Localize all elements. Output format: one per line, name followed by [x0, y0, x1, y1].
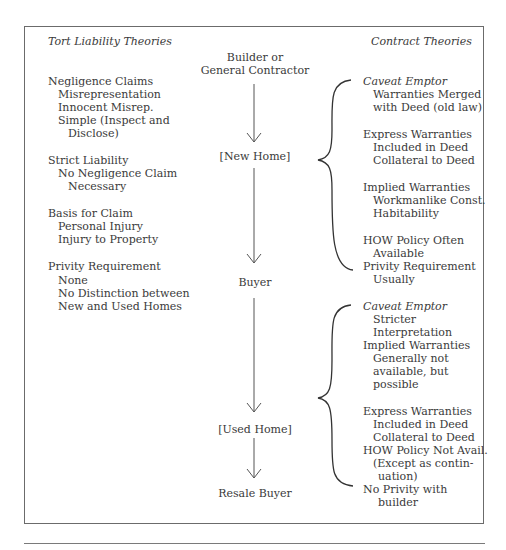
contract-item: uation) — [378, 470, 418, 483]
contract-item: Included in Deed — [373, 141, 468, 154]
contract-item: Interpretation — [373, 326, 452, 339]
contract-item: available, but — [373, 365, 449, 378]
group-item: New and Used Homes — [58, 300, 182, 313]
bottom-rule — [24, 543, 485, 544]
contract-title: No Privity with — [363, 483, 447, 496]
contract-title: Caveat Emptor — [363, 300, 447, 313]
group-item: No Distinction between — [58, 287, 190, 300]
node-general-contractor: General Contractor — [201, 64, 310, 77]
contract-title: Privity Requirement — [363, 260, 476, 273]
contract-title: Express Warranties — [363, 128, 472, 141]
node-buyer: Buyer — [238, 276, 271, 289]
group-item: Disclose) — [68, 127, 119, 140]
group-item: Simple (Inspect and — [58, 114, 170, 127]
contract-item: Collateral to Deed — [373, 431, 475, 444]
group-title: Basis for Claim — [48, 207, 133, 220]
contract-title: Implied Warranties — [363, 339, 470, 352]
group-title: Negligence Claims — [48, 75, 153, 88]
node-used-home: [Used Home] — [218, 423, 292, 436]
contract-item: possible — [373, 378, 419, 391]
group-item: None — [58, 274, 88, 287]
node-new-home: [New Home] — [220, 150, 291, 163]
contract-item: Available — [373, 247, 424, 260]
group-item: Injury to Property — [58, 233, 158, 246]
group-title: Strict Liability — [48, 154, 128, 167]
group-title: Privity Requirement — [48, 260, 161, 273]
contract-item: Workmanlike Const. — [373, 194, 486, 207]
node-resale-buyer: Resale Buyer — [218, 487, 292, 500]
group-item: Necessary — [68, 180, 126, 193]
contract-title: HOW Policy Not Avail. — [363, 444, 488, 457]
contract-item: Stricter — [373, 313, 416, 326]
contract-item: (Except as contin- — [373, 457, 473, 470]
tort-heading: Tort Liability Theories — [48, 35, 172, 48]
contract-heading: Contract Theories — [371, 35, 472, 48]
contract-title: Implied Warranties — [363, 181, 470, 194]
contract-item: Collateral to Deed — [373, 154, 475, 167]
contract-item: Generally not — [373, 352, 449, 365]
contract-title: HOW Policy Often — [363, 234, 464, 247]
contract-item: with Deed (old law) — [373, 101, 482, 114]
group-item: Personal Injury — [58, 220, 143, 233]
contract-item: Included in Deed — [373, 418, 468, 431]
group-item: No Negligence Claim — [58, 167, 177, 180]
contract-item: Usually — [373, 273, 415, 286]
group-item: Misrepresentation — [58, 88, 161, 101]
group-item: Innocent Misrep. — [58, 101, 154, 114]
contract-title: Caveat Emptor — [363, 75, 447, 88]
contract-item: Warranties Merged — [373, 88, 481, 101]
contract-title: Express Warranties — [363, 405, 472, 418]
contract-item: builder — [378, 496, 418, 509]
node-builder: Builder or — [227, 51, 283, 64]
contract-item: Habitability — [373, 207, 439, 220]
